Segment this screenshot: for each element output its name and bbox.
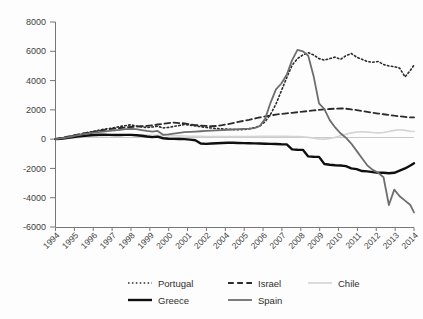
x-tick-label: 2001 (173, 230, 194, 251)
legend-label-greece: Greece (158, 295, 189, 306)
series-line-greece (56, 135, 415, 174)
y-tick-label: 0 (41, 134, 46, 144)
series-group (56, 50, 415, 213)
x-tick-label: 2006 (249, 230, 270, 251)
x-tick-label: 2009 (305, 230, 326, 251)
y-tick-label: 4000 (26, 76, 46, 86)
x-tick-label: 2007 (267, 230, 288, 251)
y-tick-label: 8000 (26, 17, 46, 27)
chart-legend: PortugalIsraelChileGreeceSpain (128, 278, 360, 306)
series-line-spain (56, 50, 415, 213)
series-line-portugal (56, 53, 415, 139)
y-tick-label: -2000 (23, 164, 46, 174)
x-axis-tick-group: 1994199519961997199819992000200120022004… (41, 228, 420, 251)
x-tick-label: 2002 (192, 230, 213, 251)
legend-label-portugal: Portugal (158, 278, 193, 289)
line-chart: -6000-4000-200002000400060008000 1994199… (0, 0, 423, 319)
x-tick-label: 2008 (286, 230, 307, 251)
x-tick-label: 2004 (211, 230, 232, 251)
legend-label-chile: Chile (338, 278, 360, 289)
x-tick-label: 1999 (135, 230, 156, 251)
x-tick-label: 1998 (116, 230, 137, 251)
x-tick-label: 2000 (154, 230, 175, 251)
legend-label-israel: Israel (258, 278, 281, 289)
x-tick-label: 2005 (230, 230, 251, 251)
x-tick-label: 2011 (343, 230, 363, 250)
y-tick-label: -6000 (23, 222, 46, 232)
y-axis-tick-group: -6000-4000-200002000400060008000 (23, 17, 56, 232)
chart-container: -6000-4000-200002000400060008000 1994199… (0, 0, 423, 319)
x-tick-label: 2010 (324, 230, 345, 251)
legend-label-spain: Spain (258, 295, 282, 306)
y-tick-label: -4000 (23, 193, 46, 203)
x-tick-label: 2014 (399, 230, 420, 251)
y-tick-label: 2000 (26, 105, 46, 115)
x-tick-label: 1997 (98, 230, 119, 251)
x-tick-label: 1995 (60, 230, 81, 251)
x-tick-label: 2013 (381, 230, 402, 251)
x-tick-label: 1994 (41, 230, 62, 251)
x-tick-label: 1996 (79, 230, 100, 251)
y-tick-label: 6000 (26, 46, 46, 56)
x-tick-label: 2012 (362, 230, 383, 251)
